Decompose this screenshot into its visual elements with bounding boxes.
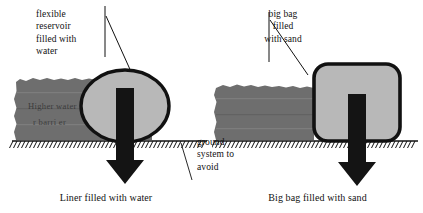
diagram-canvas: Higher water r barri er [0,0,423,213]
ground-callout-leader-line [181,143,192,180]
embankment-text-higher-water: Higher water [28,101,77,111]
embankment-text-barrier: r barri er [33,117,66,127]
embankment-body [214,85,314,141]
ground-hatch-line [10,141,208,148]
panel-liner-filled-with-water: Higher water r barri er [0,0,211,213]
caption-liner-filled-with-water: Liner filled with water [0,192,212,203]
callout-big-bag: big bag filled with sand [246,8,320,45]
callout-ground-system-to-avoid: ground system to avoid [197,136,234,173]
caption-big-bag-filled-with-sand: Big bag filled with sand [212,192,423,203]
callout-flexible-reservoir: flexible reservoir filled with water [36,8,76,58]
